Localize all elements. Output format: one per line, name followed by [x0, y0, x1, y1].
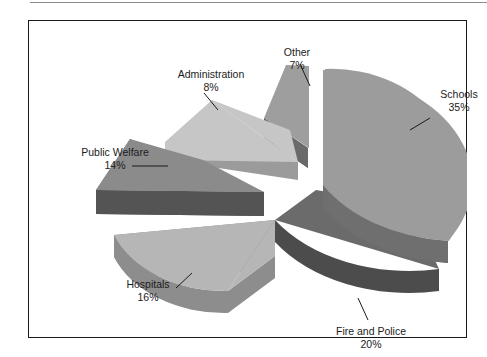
pie-label-public-welfare-value: 14%: [62, 159, 168, 172]
pie-label-other-value: 7%: [266, 59, 328, 72]
pie-label-public-welfare: Public Welfare 14%: [62, 146, 168, 171]
pie-label-fire-and-police: Fire and Police 20%: [314, 325, 428, 350]
pie-label-schools-name: Schools: [428, 88, 487, 101]
pie-label-other-name: Other: [266, 46, 328, 59]
pie-label-hospitals: Hospitals 16%: [112, 278, 184, 303]
pie-label-hospitals-name: Hospitals: [112, 278, 184, 291]
pie-label-public-welfare-name: Public Welfare: [62, 146, 168, 159]
pie-label-fire-and-police-value: 20%: [314, 338, 428, 351]
pie-label-schools: Schools 35%: [428, 88, 487, 113]
pie-label-schools-value: 35%: [428, 101, 487, 114]
pie-label-fire-and-police-name: Fire and Police: [314, 325, 428, 338]
page-top-rule: [30, 2, 487, 3]
pie-label-administration-name: Administration: [152, 68, 270, 81]
pie-label-hospitals-value: 16%: [112, 291, 184, 304]
pie-label-administration: Administration 8%: [152, 68, 270, 93]
pie-label-other: Other 7%: [266, 46, 328, 71]
pie-label-administration-value: 8%: [152, 81, 270, 94]
pie-chart: Other 7% Administration 8% Schools 35% P…: [28, 20, 467, 338]
figure-page: © 2017 Cengage Learning: [0, 0, 487, 357]
leader-line-fire-and-police: [358, 298, 368, 320]
